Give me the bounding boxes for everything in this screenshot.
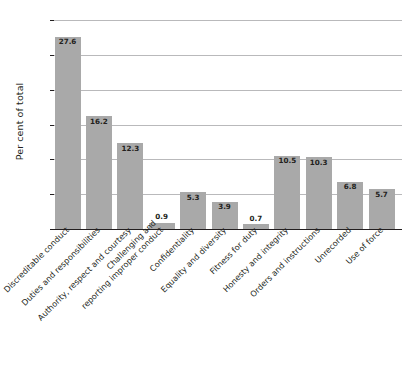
plot-area: 051015202530 27.616.212.30.95.33.90.710.… <box>54 20 402 230</box>
bar-chart: Per cent of total 051015202530 27.616.21… <box>0 0 414 367</box>
bar-item[interactable]: 6.8 <box>337 19 363 229</box>
bar-item[interactable]: 10.3 <box>306 19 332 229</box>
bar-item[interactable]: 10.5 <box>274 19 300 229</box>
bar-value-label: 27.6 <box>55 37 81 46</box>
bar-item[interactable]: 5.3 <box>180 19 206 229</box>
bar-value-label: 10.5 <box>274 156 300 165</box>
bar-value-label: 12.3 <box>117 144 143 153</box>
bar-value-label: 5.7 <box>369 190 395 199</box>
bar[interactable] <box>274 156 300 229</box>
bar[interactable] <box>306 157 332 229</box>
bar-item[interactable]: 16.2 <box>86 19 112 229</box>
bar[interactable] <box>55 37 81 229</box>
bar-value-label: 16.2 <box>86 117 112 126</box>
bar-item[interactable]: 12.3 <box>117 19 143 229</box>
bar[interactable] <box>86 116 112 229</box>
y-axis-title: Per cent of total <box>14 52 25 192</box>
bar-series: 27.616.212.30.95.33.90.710.510.36.85.7 <box>54 20 402 229</box>
bar-value-label: 5.3 <box>180 193 206 202</box>
bar-item[interactable]: 0.9 <box>149 19 175 229</box>
bar-item[interactable]: 5.7 <box>369 19 395 229</box>
bar-item[interactable]: 27.6 <box>55 19 81 229</box>
bar-value-label: 3.9 <box>212 202 238 211</box>
bar-value-label: 0.7 <box>243 214 269 223</box>
bar-item[interactable]: 0.7 <box>243 19 269 229</box>
bar-value-label: 10.3 <box>306 158 332 167</box>
bar-item[interactable]: 3.9 <box>212 19 238 229</box>
x-axis-category-labels: Discreditable conductDuties and responsi… <box>54 232 414 367</box>
bar[interactable] <box>117 143 143 229</box>
bar-value-label: 6.8 <box>337 182 363 191</box>
